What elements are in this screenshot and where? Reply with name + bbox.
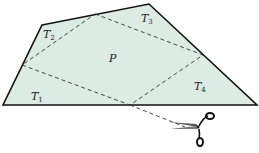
label-p: P (108, 52, 117, 65)
diagram-canvas: T1 T2 T3 T4 P (0, 0, 259, 153)
scissors-icon (168, 113, 214, 146)
quadrilateral (3, 4, 257, 105)
cut-line (130, 105, 185, 127)
